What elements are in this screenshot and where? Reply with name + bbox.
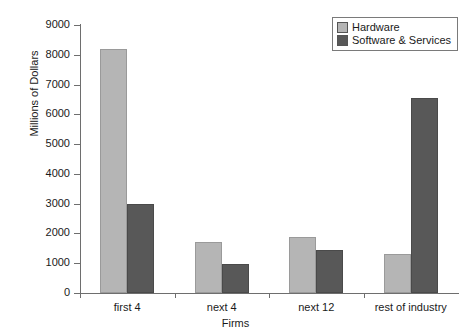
bar-software bbox=[316, 250, 343, 293]
x-axis-title: Firms bbox=[0, 318, 471, 329]
bar-hardware bbox=[100, 49, 127, 293]
plot-area bbox=[80, 25, 458, 293]
x-category-label: first 4 bbox=[114, 301, 141, 313]
y-tick-label: 3000 bbox=[22, 198, 70, 209]
x-tick-mark-origin bbox=[80, 293, 81, 298]
bar-hardware bbox=[384, 254, 411, 293]
x-tick-mark bbox=[364, 293, 365, 298]
bar-hardware bbox=[289, 237, 316, 293]
y-tick-label: 0 bbox=[22, 287, 70, 298]
bar-chart: Hardware Software & Services 01000200030… bbox=[0, 0, 471, 332]
bar-hardware bbox=[195, 242, 222, 293]
x-tick-mark bbox=[269, 293, 270, 298]
bar-software bbox=[127, 204, 154, 293]
x-category-label: rest of industry bbox=[375, 301, 447, 313]
x-tick-mark bbox=[175, 293, 176, 298]
y-tick-label: 2000 bbox=[22, 227, 70, 238]
x-category-label: next 12 bbox=[298, 301, 334, 313]
x-category-label: next 4 bbox=[207, 301, 237, 313]
bar-software bbox=[222, 264, 249, 293]
y-tick-label: 1000 bbox=[22, 257, 70, 268]
bar-software bbox=[411, 98, 438, 293]
y-axis-title: Millions of Dollars bbox=[29, 14, 40, 174]
